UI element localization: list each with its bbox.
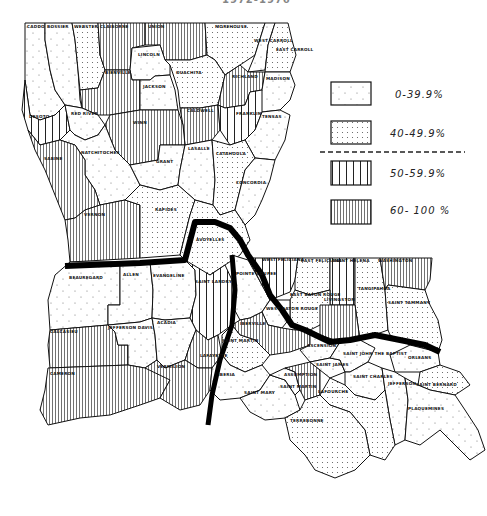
label-east-carroll: EAST CARROLL	[276, 47, 314, 52]
legend-label-0: 0-39.9%	[395, 89, 444, 100]
label-morehouse: MOREHOUSE	[215, 24, 247, 29]
parish-jackson	[140, 75, 178, 110]
label-caddo: CADDO	[27, 24, 45, 29]
label-iberville: IBERVILLE	[240, 321, 266, 326]
label-union: UNION	[148, 24, 165, 29]
label-bossier: BOSSIER	[47, 24, 69, 29]
label-west-baton-rouge: WEST BATON ROUGE	[266, 306, 318, 311]
label-pointe-coupee: POINTE COUPEE	[236, 271, 276, 276]
label-acadia: ACADIA	[157, 320, 177, 325]
label-claiborne: CLAIBORNE	[100, 24, 129, 29]
label-concordia: CONCORDIA	[236, 180, 267, 185]
label-livingston: LIVINGSTON	[324, 297, 355, 302]
legend: 0-39.9% 40-49.9% 50-59.9% 60- 100 %	[320, 82, 465, 224]
label-ascension: ASCENSION	[307, 343, 336, 348]
label-assumption: ASSUMPTION	[284, 372, 317, 377]
label-saint-martin: SAINT MARTIN	[222, 338, 259, 343]
label-calcasieu: CALCASIEU	[50, 329, 78, 334]
label-cameron: CAMERON	[50, 371, 75, 376]
legend-label-3: 60- 100 %	[390, 205, 450, 216]
label-lafayette: LAFAYETTE	[200, 353, 228, 358]
label-webster: WEBSTER	[74, 24, 99, 29]
label-saint-bernard: SAINT BERNARD	[416, 382, 457, 387]
label-winn: WINN	[133, 120, 147, 125]
label-saint-helena: SAINT HELENA	[333, 258, 370, 263]
label-grant: GRANT	[156, 159, 173, 164]
label-ouachita: OUACHITA	[176, 70, 202, 75]
label-saint-james: SAINT JAMES	[316, 362, 349, 367]
label-sabine: SABINE	[44, 156, 63, 161]
label-terrebonne: TERREBONNE	[290, 418, 324, 423]
parish-east-feliciana	[295, 258, 330, 295]
label-bienville: BIENVILLE	[105, 70, 131, 75]
label-allen: ALLEN	[123, 272, 139, 277]
label-red-river: RED RIVER	[71, 111, 99, 116]
label-saint-john: SAINT JOHN THE BAPTIST	[343, 351, 407, 356]
legend-swatch-3	[331, 200, 371, 224]
label-rapides: RAPIDES	[155, 207, 177, 212]
label-caldwell: CALDWELL	[187, 108, 214, 113]
legend-swatch-1	[331, 121, 371, 144]
label-desoto: DESOTO	[29, 114, 50, 119]
label-jefferson: JEFFERSON	[387, 381, 416, 386]
label-catahoula: CATAHOULA	[216, 151, 246, 156]
label-lafourche: LAFOURCHE	[318, 389, 348, 394]
legend-swatch-2	[331, 161, 371, 185]
legend-label-2: 50-59.9%	[390, 168, 446, 179]
label-natchitoches: NATCHITOCHES	[81, 150, 120, 155]
label-beauregard: BEAUREGARD	[69, 275, 103, 280]
label-richland: RICHLAND	[232, 74, 258, 79]
label-west-carroll: WEST CARROLL	[254, 38, 293, 43]
label-vermilion: VERMILION	[157, 364, 185, 369]
label-lasalle: LASALLE	[188, 146, 210, 151]
label-orleans: ORLEANS	[408, 355, 431, 360]
label-tangipahoa: TANGIPAHOA	[358, 286, 391, 291]
legend-swatch-0	[331, 82, 371, 105]
label-tensas: TENSAS	[262, 114, 282, 119]
label-jackson: JACKSON	[142, 84, 166, 89]
parish-evangeline	[150, 260, 196, 320]
label-franklin: FRANKLIN	[236, 111, 262, 116]
label-iberia: IBERIA	[218, 372, 235, 377]
label-madison: MADISON	[266, 76, 290, 81]
label-saint-tammany: SAINT TAMMANY	[388, 300, 431, 305]
label-jefferson-davis: JEFFERSON DAVIS	[107, 325, 153, 330]
label-saint-landry: SAINT LANDRY	[195, 279, 233, 284]
label-saint-charles: SAINT CHARLES	[353, 374, 393, 379]
label-saint-mary: SAINT MARY	[244, 390, 276, 395]
louisiana-parish-map: CADDO BOSSIER WEBSTER CLAIBORNE UNION MO…	[0, 0, 487, 516]
label-lincoln: LINCOLN	[138, 52, 160, 57]
label-saint-martin-2: SAINT MARTIN	[280, 384, 317, 389]
label-avoyelles: AVOYELLES	[196, 237, 224, 242]
legend-label-1: 40-49.9%	[390, 128, 446, 139]
label-washington: WASHINGTON	[378, 258, 413, 263]
label-plaquemines: PLAQUEMINES	[408, 406, 444, 411]
label-evangeline: EVANGELINE	[153, 273, 184, 278]
label-vernon: VERNON	[84, 212, 105, 217]
label-west-feliciana: WEST FELICIANA	[262, 257, 305, 262]
